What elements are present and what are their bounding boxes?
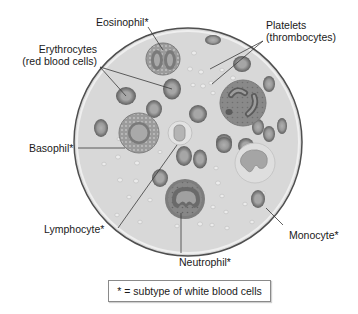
label-erythrocytes-line1: Erythrocytes [21, 43, 97, 55]
legend-text: * = subtype of white blood cells [117, 285, 261, 297]
label-erythrocytes: Erythrocytes (red blood cells) [21, 43, 97, 67]
lymphocyte-cell [168, 121, 192, 145]
label-monocyte: Monocyte* [289, 229, 339, 241]
label-basophil: Basophil* [29, 142, 73, 154]
legend-box: * = subtype of white blood cells [108, 280, 271, 302]
neutrophil-cell-upper [220, 80, 266, 126]
label-platelets-line2: (thrombocytes) [266, 31, 336, 43]
label-platelets-line1: Platelets [266, 19, 336, 31]
basophil-cell [119, 113, 159, 153]
neutrophil-cell [165, 179, 205, 219]
monocyte-cell [235, 143, 275, 183]
label-neutrophil: Neutrophil* [179, 256, 231, 268]
label-platelets: Platelets (thrombocytes) [266, 19, 336, 43]
label-lymphocyte: Lymphocyte* [44, 223, 104, 235]
eosinophil-cell [146, 43, 180, 75]
label-erythrocytes-line2: (red blood cells) [21, 55, 97, 67]
label-eosinophil: Eosinophil* [96, 16, 149, 28]
